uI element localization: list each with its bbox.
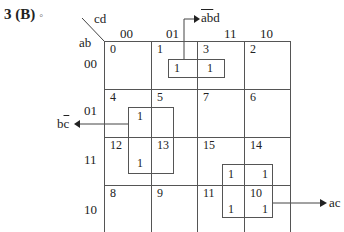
minterm-value: 1	[207, 62, 213, 75]
col-header: 01	[166, 27, 179, 41]
minterm-value: 1	[262, 168, 268, 181]
minterm-value: 1	[137, 110, 143, 123]
term-label-bc: bc	[57, 117, 69, 131]
col-variable-label: cd	[94, 12, 106, 26]
col-header: 00	[120, 27, 133, 41]
row-variable-label: ab	[79, 36, 91, 50]
kmap-cell: 6	[244, 89, 291, 138]
row-header: 10	[84, 203, 97, 217]
group-bc	[128, 107, 174, 174]
kmap-cell: 7	[197, 89, 245, 138]
minterm-value: 1	[228, 203, 234, 216]
col-header: 11	[224, 27, 237, 41]
minterm-value: 1	[262, 203, 268, 216]
kmap-cell: 9	[151, 185, 198, 232]
minterm-value: 1	[137, 157, 143, 170]
kmap-cell: 0	[104, 41, 152, 90]
kmap-cell: 8	[104, 185, 152, 232]
row-header: 00	[84, 57, 97, 71]
col-header: 10	[260, 27, 273, 41]
term-label-ac: ac	[329, 196, 341, 210]
row-header: 11	[84, 153, 97, 167]
row-header: 01	[84, 104, 97, 118]
kmap-cell: 2	[244, 41, 291, 90]
term-label-abd: abd	[201, 11, 220, 25]
minterm-value: 1	[174, 62, 180, 75]
minterm-value: 1	[228, 168, 234, 181]
